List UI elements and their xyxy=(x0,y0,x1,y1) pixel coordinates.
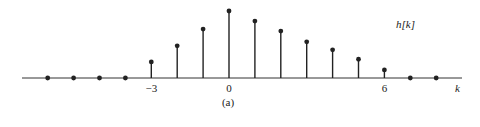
stem-dot xyxy=(45,76,50,81)
stem-dot xyxy=(201,27,206,32)
stem-dot xyxy=(97,76,102,81)
stem-dot xyxy=(278,29,283,34)
stem-dot xyxy=(175,43,180,48)
stems xyxy=(45,9,438,81)
stem-dot xyxy=(434,76,439,81)
stem-dot xyxy=(356,57,361,62)
stem-dot xyxy=(253,19,258,24)
stem-dot xyxy=(408,76,413,81)
stem-dot xyxy=(382,68,387,73)
x-tick-label: 0 xyxy=(226,82,232,94)
stem-dot xyxy=(123,76,128,81)
series-label: h[k] xyxy=(396,18,415,30)
figure-caption: (a) xyxy=(222,96,235,109)
stem-dot xyxy=(149,60,154,65)
x-tick-label: −3 xyxy=(145,82,157,94)
x-tick-label: 6 xyxy=(382,82,388,94)
stem-plot: −306 h[k] k (a) xyxy=(0,0,480,127)
stem-dot xyxy=(71,76,76,81)
stem-dot xyxy=(330,47,335,52)
stem-dot xyxy=(304,39,309,44)
tick-labels: −306 xyxy=(145,82,387,94)
x-axis-label: k xyxy=(455,82,461,94)
stem-dot xyxy=(227,9,232,14)
